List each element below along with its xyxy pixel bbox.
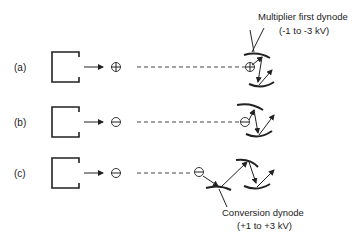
ion-source-box xyxy=(52,107,79,137)
ion-detection-diagram: (a) (b) xyxy=(0,0,363,243)
ion-source-box xyxy=(52,158,79,188)
conversion-dynode xyxy=(206,186,231,190)
first-dynode xyxy=(237,104,263,110)
first-dynode xyxy=(236,160,258,167)
positive-ion-icon xyxy=(112,63,121,72)
first-dynode xyxy=(244,54,270,58)
conversion-voltage: (+1 to +3 kV) xyxy=(237,220,292,231)
negative-ion-icon xyxy=(195,168,204,177)
multiplier-label: Multiplier first dynode xyxy=(258,11,348,22)
row-a: (a) xyxy=(14,52,274,87)
negative-ion-icon xyxy=(241,118,250,127)
ion-source-box xyxy=(52,52,79,82)
second-dynode xyxy=(246,131,272,136)
conversion-annotation: Conversion dynode (+1 to +3 kV) xyxy=(219,189,304,231)
row-label-c: (c) xyxy=(14,168,26,179)
negative-ion-icon xyxy=(112,118,121,127)
second-dynode xyxy=(244,184,270,189)
row-b: (b) xyxy=(14,104,274,137)
conversion-label: Conversion dynode xyxy=(222,207,304,218)
negative-ion-icon xyxy=(112,169,121,178)
row-label-b: (b) xyxy=(14,117,26,128)
row-label-a: (a) xyxy=(14,62,26,73)
multiplier-annotation: Multiplier first dynode (-1 to -3 kV) xyxy=(250,11,348,52)
row-c: (c) xyxy=(14,158,274,190)
multiplier-voltage: (-1 to -3 kV) xyxy=(279,25,329,36)
